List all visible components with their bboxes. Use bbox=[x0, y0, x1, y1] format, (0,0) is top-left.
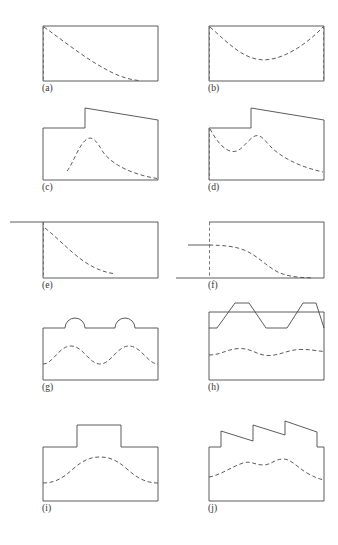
panel-b-outline bbox=[209, 26, 324, 81]
panel-h-label: (h) bbox=[208, 383, 219, 393]
panel-d-dip-peak-decay-curve bbox=[210, 129, 323, 172]
panel-h-gentle-wave-curve bbox=[209, 348, 324, 355]
panel-b bbox=[209, 26, 324, 81]
panel-i bbox=[43, 425, 158, 501]
panel-a-outline bbox=[43, 26, 158, 81]
panel-i-outline bbox=[43, 425, 158, 501]
panel-f-sigmoid-curve bbox=[209, 245, 313, 278]
panel-c-peak-decay-curve bbox=[67, 138, 157, 178]
panel-g-outline bbox=[43, 318, 158, 380]
panel-g-label: (g) bbox=[42, 383, 53, 393]
panel-e-outline bbox=[43, 222, 158, 278]
panel-i-broad-hump-curve bbox=[43, 457, 158, 483]
panel-j-label: (j) bbox=[208, 504, 217, 514]
panel-a-decay-curve bbox=[44, 27, 140, 81]
panel-c bbox=[43, 108, 158, 180]
panel-b-label: (b) bbox=[208, 84, 219, 94]
panel-f-outline bbox=[209, 222, 324, 278]
panel-h bbox=[209, 303, 324, 380]
panel-c-label: (c) bbox=[42, 183, 53, 193]
panel-d-outline bbox=[209, 108, 324, 180]
panel-j-wavy-curve bbox=[209, 459, 324, 480]
panel-j-sawtooth-outline bbox=[209, 421, 324, 501]
panel-d-label: (d) bbox=[208, 183, 219, 193]
panel-d bbox=[209, 108, 324, 180]
panel-h-crenellation-profile bbox=[209, 303, 324, 328]
panel-a bbox=[43, 26, 158, 81]
panel-h-box-sides bbox=[209, 312, 324, 380]
panel-e-label: (e) bbox=[42, 281, 53, 291]
panel-g bbox=[43, 312, 158, 380]
panel-b-catenary-curve bbox=[210, 27, 323, 60]
panel-i-label: (i) bbox=[42, 504, 51, 514]
panel-e-decay-curve bbox=[45, 228, 113, 274]
panel-j bbox=[209, 421, 324, 501]
panel-f bbox=[176, 222, 324, 278]
panel-e bbox=[10, 222, 158, 278]
panel-a-label: (a) bbox=[42, 84, 53, 94]
panel-f-label: (f) bbox=[208, 281, 218, 291]
panel-g-two-hump-curve bbox=[43, 346, 158, 364]
figure-canvas: (a) (b) (c) (d) (e) bbox=[0, 0, 338, 545]
panel-c-outline bbox=[43, 108, 158, 180]
